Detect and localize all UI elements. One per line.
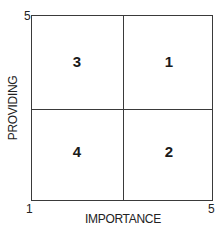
y-axis-max-tick: 5 <box>24 9 31 23</box>
quadrant-grid: 3 1 4 2 <box>31 15 213 201</box>
quadrant-bottom-left-label: 4 <box>62 143 92 160</box>
axis-origin-tick: 1 <box>26 202 33 216</box>
x-axis-label: IMPORTANCE <box>85 212 161 226</box>
quadrant-top-right-label: 1 <box>154 53 184 70</box>
vertical-divider <box>123 16 124 200</box>
x-axis-max-tick: 5 <box>208 202 215 216</box>
quadrant-bottom-right-label: 2 <box>154 143 184 160</box>
y-axis-label: PROVIDING <box>6 76 20 141</box>
horizontal-divider <box>32 109 212 110</box>
quadrant-top-left-label: 3 <box>62 53 92 70</box>
